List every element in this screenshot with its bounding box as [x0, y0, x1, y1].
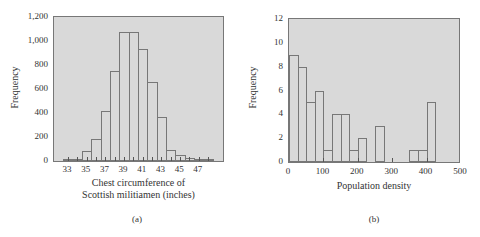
y-tick-label: 600 [14, 83, 48, 93]
x-tick-mark [208, 157, 209, 161]
y-tick-label: 800 [14, 59, 48, 69]
y-tick-label: 0 [14, 155, 48, 165]
x-tick-label: 200 [342, 166, 372, 176]
x-tick-mark [427, 158, 428, 162]
y-tick-label: 4 [249, 108, 283, 118]
panel-a: Frequency 02004006008001,0001,200 333537… [0, 0, 240, 237]
x-tick-mark [96, 157, 97, 161]
x-tick-label: 300 [376, 166, 406, 176]
y-tick-label: 0 [249, 156, 283, 166]
x-tick-mark [323, 158, 324, 162]
histogram-bar [358, 138, 368, 162]
x-tick-mark [133, 157, 134, 161]
x-tick-mark [161, 157, 162, 161]
x-tick-mark [392, 158, 393, 162]
x-tick-label: 0 [273, 166, 303, 176]
panel-caption-a: (a) [117, 214, 157, 224]
x-tick-mark [77, 157, 78, 161]
x-axis-label-a: Chest circumference of Scottish militiam… [53, 177, 224, 201]
x-tick-mark [105, 157, 106, 161]
x-axis-label-b: Population density [288, 180, 460, 192]
y-tick-label: 2 [249, 132, 283, 142]
x-tick-mark [171, 157, 172, 161]
y-tick-label: 1,200 [14, 11, 48, 21]
y-tick-label: 10 [249, 37, 283, 47]
x-tick-mark [68, 157, 69, 161]
histogram-plot-b [288, 18, 460, 163]
panel-b: Frequency 024681012 0100200300400500 Pop… [240, 0, 480, 237]
panel-caption-b: (b) [354, 214, 394, 224]
y-tick-label: 12 [249, 13, 283, 23]
x-axis-label-a-line2: Scottish militiamen (inches) [53, 189, 224, 201]
x-tick-mark [358, 158, 359, 162]
y-tick-label: 8 [249, 61, 283, 71]
x-tick-label: 400 [411, 166, 441, 176]
x-tick-mark [143, 157, 144, 161]
y-tick-label: 400 [14, 107, 48, 117]
x-tick-mark [152, 157, 153, 161]
x-tick-mark [189, 157, 190, 161]
y-tick-label: 200 [14, 131, 48, 141]
x-tick-mark [124, 157, 125, 161]
x-tick-mark [180, 157, 181, 161]
x-tick-label: 100 [307, 166, 337, 176]
histogram-bar [375, 126, 385, 162]
histogram-plot-a [53, 16, 224, 162]
y-tick-label: 6 [249, 85, 283, 95]
x-tick-mark [87, 157, 88, 161]
x-tick-mark [115, 157, 116, 161]
y-tick-label: 1,000 [14, 35, 48, 45]
histogram-bar [427, 102, 437, 162]
x-axis-label-a-line1: Chest circumference of [53, 177, 224, 189]
x-tick-label: 500 [445, 166, 475, 176]
x-tick-label: 47 [183, 164, 213, 174]
x-tick-mark [199, 157, 200, 161]
